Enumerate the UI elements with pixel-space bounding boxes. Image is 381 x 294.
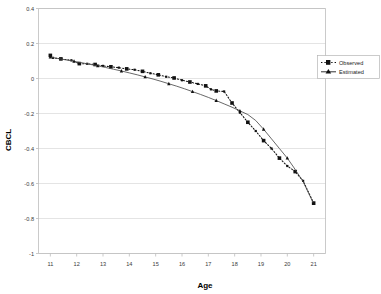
data-point-marker (255, 130, 257, 132)
y-axis-tick-label: -0.2 (24, 111, 34, 117)
data-point-marker (270, 147, 272, 149)
x-axis-tick-label: 21 (311, 261, 317, 267)
data-point-marker (134, 69, 136, 71)
legend-estimated-label: Estimated (339, 69, 364, 75)
data-point-marker (165, 76, 167, 78)
data-point-marker (246, 120, 250, 124)
data-point-marker (278, 156, 282, 160)
x-axis-tick-label: 16 (179, 261, 185, 267)
x-axis-tick-label: 18 (232, 261, 238, 267)
legend-observed-label: Observed (339, 60, 363, 66)
y-axis-tick-label: -0.6 (24, 181, 34, 187)
x-axis-tick-label: 14 (126, 261, 132, 267)
x-axis-tick-label: 17 (205, 261, 211, 267)
data-point-marker (125, 67, 129, 71)
x-axis-tick-label: 11 (47, 261, 53, 267)
data-point-marker (230, 101, 234, 105)
y-axis-tick-label: 0.2 (26, 41, 34, 47)
legend-item-observed[interactable]: Observed (321, 60, 363, 66)
x-axis-title: Age (197, 281, 213, 290)
data-point-marker (262, 139, 266, 143)
chart-container: 0.40.20-0.2-0.4-0.6-0.8-1 11121314151617… (0, 0, 381, 294)
data-point-marker (204, 84, 208, 88)
chart-background (0, 0, 381, 294)
y-axis-tick-label: -0.4 (24, 146, 34, 152)
cbcl-age-line-chart: 0.40.20-0.2-0.4-0.6-0.8-1 11121314151617… (0, 0, 381, 294)
x-axis-tick-label: 19 (258, 261, 264, 267)
data-point-marker (286, 165, 288, 167)
y-axis-title: CBCL (4, 129, 13, 151)
data-point-marker (188, 80, 192, 84)
data-point-marker (172, 76, 176, 80)
data-point-marker (157, 73, 161, 77)
data-point-marker (181, 79, 183, 81)
x-axis-tick-label: 12 (74, 261, 80, 267)
chart-legend[interactable]: Observed Estimated (318, 56, 380, 79)
data-point-marker (197, 83, 199, 85)
x-axis-tick-label: 13 (100, 261, 106, 267)
y-axis-tick-label: -1 (29, 251, 34, 257)
legend-observed-marker (326, 60, 330, 65)
data-point-marker (149, 72, 151, 74)
data-point-marker (118, 67, 120, 69)
x-axis-tick-label: 15 (153, 261, 159, 267)
y-axis-tick-label: -0.8 (24, 216, 34, 222)
data-point-marker (223, 90, 225, 92)
data-point-marker (214, 89, 218, 93)
y-axis-tick-label: 0 (31, 76, 34, 82)
y-axis-tick-label: 0.4 (26, 6, 34, 12)
x-axis-tick-label: 20 (284, 261, 290, 267)
data-point-marker (141, 70, 145, 74)
data-point-marker (210, 88, 212, 90)
